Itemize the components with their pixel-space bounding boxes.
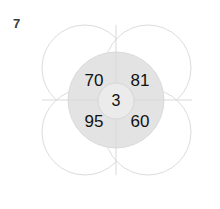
puzzle-diagram: 70 81 95 60 3 [0, 0, 220, 209]
figure-container: 7 70 81 95 60 3 [0, 0, 220, 209]
quadrant-value-bottom-left: 95 [85, 112, 104, 131]
quadrant-value-top-right: 81 [131, 71, 150, 90]
quadrant-value-top-left: 70 [85, 71, 104, 90]
center-value: 3 [112, 92, 121, 109]
quadrant-value-bottom-right: 60 [131, 112, 150, 131]
